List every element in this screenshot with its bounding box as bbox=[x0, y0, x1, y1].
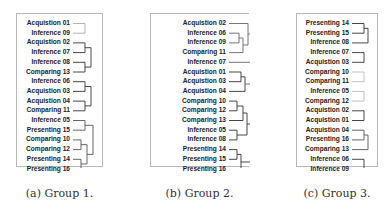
leaf-label: Presenting 15 bbox=[27, 125, 70, 135]
leaf-label: Inference 06 bbox=[188, 28, 226, 38]
leaf-label: Comparing 10 bbox=[305, 67, 349, 77]
leaf-label: Presenting 15 bbox=[306, 28, 349, 38]
leaf-label: Acquistion 01 bbox=[183, 67, 226, 77]
leaf-label: Presenting 16 bbox=[27, 164, 70, 174]
leaf-label: Acquistion 02 bbox=[27, 37, 70, 47]
leaf-label: Inference 09 bbox=[32, 28, 70, 38]
dendrogram-panel-group-3: Presenting 14 Presenting 15 Inference 08… bbox=[296, 13, 378, 167]
leaf-label: Inference 05 bbox=[311, 86, 349, 96]
leaf-label: Acquistion 01 bbox=[27, 18, 70, 28]
leaf-label: Acquistion 02 bbox=[306, 105, 349, 115]
leaf-label: Presenting 14 bbox=[306, 18, 349, 28]
leaf-label: Presenting 16 bbox=[306, 134, 349, 144]
leaf-label: Acquistion 02 bbox=[183, 18, 226, 28]
leaf-label: Presenting 14 bbox=[27, 154, 70, 164]
leaf-label: Inference 07 bbox=[311, 47, 349, 57]
leaf-label: Presenting 15 bbox=[183, 154, 226, 164]
leaf-label: Acquistion 04 bbox=[306, 125, 349, 135]
leaf-label: Inference 09 bbox=[311, 164, 349, 174]
leaf-label: Acquistion 03 bbox=[27, 86, 70, 96]
leaf-label: Comparing 10 bbox=[26, 134, 70, 144]
leaf-label: Comparing 12 bbox=[305, 96, 349, 106]
leaf-label: Inference 09 bbox=[188, 37, 226, 47]
leaf-label: Inference 08 bbox=[32, 57, 70, 67]
leaf-label: Comparing 13 bbox=[182, 115, 226, 125]
leaf-label: Inference 06 bbox=[32, 76, 70, 86]
leaf-label: Comparing 11 bbox=[26, 105, 70, 115]
leaf-label: Comparing 11 bbox=[182, 47, 226, 57]
leaf-label: Inference 05 bbox=[32, 115, 70, 125]
leaf-label: Inference 08 bbox=[311, 37, 349, 47]
leaf-label: Acquistion 01 bbox=[306, 115, 349, 125]
leaf-label: Inference 05 bbox=[188, 125, 226, 135]
leaf-label: Inference 07 bbox=[188, 57, 226, 67]
leaf-label: Comparing 13 bbox=[305, 144, 349, 154]
leaf-label: Comparing 11 bbox=[305, 76, 349, 86]
leaf-label: Acquistion 04 bbox=[183, 86, 226, 96]
dendrogram-panel-group-2: Acquistion 02 Inference 06 Inference 09 … bbox=[150, 13, 249, 167]
leaf-label: Inference 07 bbox=[32, 47, 70, 57]
leaf-label: Presenting 16 bbox=[183, 164, 226, 174]
leaf-label: Comparing 12 bbox=[182, 105, 226, 115]
leaf-label: Presenting 14 bbox=[183, 144, 226, 154]
leaf-label: Inference 08 bbox=[188, 134, 226, 144]
leaf-label: Comparing 12 bbox=[26, 144, 70, 154]
caption-group-2: (b) Group 2. bbox=[150, 187, 249, 200]
leaf-label: Inference 06 bbox=[311, 154, 349, 164]
leaf-label: Acquistion 03 bbox=[183, 76, 226, 86]
dendrogram-panel-group-1: Acquistion 01 Inference 09 Acquistion 02… bbox=[16, 13, 103, 167]
caption-group-1: (a) Group 1. bbox=[16, 187, 103, 200]
caption-group-3: (c) Group 3. bbox=[296, 187, 378, 200]
leaf-label: Comparing 10 bbox=[182, 96, 226, 106]
leaf-label: Acquistion 03 bbox=[306, 57, 349, 67]
leaf-label: Comparing 13 bbox=[26, 67, 70, 77]
leaf-label: Acquistion 04 bbox=[27, 96, 70, 106]
